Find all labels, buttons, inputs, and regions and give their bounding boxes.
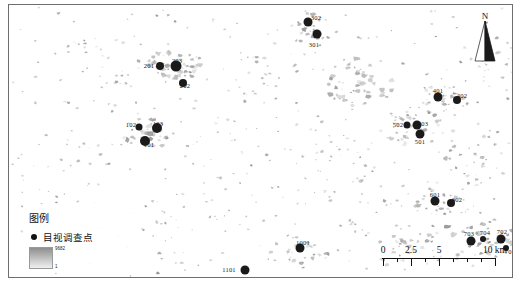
scale-tick-minor-1 bbox=[397, 258, 398, 262]
survey-point-label-103: 103 bbox=[153, 120, 163, 127]
survey-point-label-601: 601 bbox=[430, 191, 440, 198]
scale-tick-minor-0 bbox=[383, 258, 384, 262]
legend-ramp-max: 9682 bbox=[55, 247, 65, 252]
survey-point-label-1001: 1001 bbox=[296, 239, 310, 246]
survey-point-label-702: 702 bbox=[497, 228, 507, 235]
scale-tick-minor-7 bbox=[481, 258, 482, 262]
scale-tick-minor-2 bbox=[411, 258, 412, 262]
survey-point-label-703: 703 bbox=[464, 230, 474, 237]
scale-tick-label-3: 10 km bbox=[483, 245, 507, 255]
scale-tick-minor-4 bbox=[439, 258, 440, 262]
scale-bar-labels: 02.5510 km bbox=[380, 245, 498, 257]
survey-point-label-301: 301 bbox=[309, 41, 319, 48]
scale-tick-label-0: 0 bbox=[381, 245, 386, 255]
survey-point-label-201: 201 bbox=[144, 62, 154, 69]
legend-ramp-labels: 9682 1 bbox=[55, 247, 65, 269]
survey-point-702[interactable] bbox=[497, 235, 506, 244]
scale-tick-minor-5 bbox=[453, 258, 454, 262]
legend: 图例 目视调查点 9682 1 bbox=[23, 207, 135, 269]
scale-bar: 02.5510 km bbox=[380, 245, 498, 271]
survey-point-label-203: 203 bbox=[172, 57, 182, 64]
scale-tick-minor-8 bbox=[495, 258, 496, 262]
survey-point-label-1101: 1101 bbox=[222, 266, 236, 273]
scale-tick-label-1: 2.5 bbox=[405, 245, 417, 255]
legend-ramp-swatch bbox=[29, 247, 53, 269]
survey-point-label-102: 102 bbox=[126, 121, 136, 128]
survey-point-label-101: 101 bbox=[144, 141, 154, 148]
survey-point-label-704: 704 bbox=[480, 229, 490, 236]
survey-point-label-501: 501 bbox=[415, 138, 425, 145]
survey-point-601[interactable] bbox=[431, 197, 440, 206]
survey-point-label-503: 503 bbox=[418, 120, 428, 127]
map-screenshot: 3023012012032024014025025035011021031016… bbox=[0, 0, 522, 287]
scale-tick-label-2: 5 bbox=[437, 245, 442, 255]
legend-ramp-entry: 9682 1 bbox=[29, 247, 131, 269]
legend-ramp-min: 1 bbox=[55, 265, 65, 270]
survey-point-401[interactable] bbox=[434, 93, 443, 102]
survey-point-1101[interactable] bbox=[241, 266, 250, 275]
scale-bar-axis bbox=[380, 258, 498, 267]
legend-point-symbol bbox=[31, 234, 37, 240]
survey-point-102[interactable] bbox=[136, 124, 143, 131]
survey-point-label-401: 401 bbox=[433, 87, 443, 94]
scale-tick-minor-3 bbox=[425, 258, 426, 262]
survey-point-label-502: 502 bbox=[393, 121, 403, 128]
map-frame: 3023012012032024014025025035011021031016… bbox=[8, 4, 513, 278]
scale-tick-minor-6 bbox=[467, 258, 468, 262]
legend-point-entry: 目视调查点 bbox=[31, 230, 131, 244]
survey-point-label-402: 402 bbox=[457, 92, 467, 99]
legend-point-label: 目视调查点 bbox=[43, 230, 93, 244]
north-arrow-icon: N bbox=[472, 13, 498, 65]
north-label: N bbox=[482, 11, 489, 21]
survey-point-label-302: 302 bbox=[311, 14, 321, 21]
legend-title: 图例 bbox=[29, 210, 131, 225]
survey-point-label-602: 602 bbox=[452, 196, 462, 203]
survey-point-502[interactable] bbox=[404, 122, 411, 129]
survey-point-301[interactable] bbox=[313, 30, 322, 39]
survey-point-label-202: 202 bbox=[180, 82, 190, 89]
survey-point-704[interactable] bbox=[480, 236, 486, 242]
survey-point-201[interactable] bbox=[156, 62, 164, 70]
